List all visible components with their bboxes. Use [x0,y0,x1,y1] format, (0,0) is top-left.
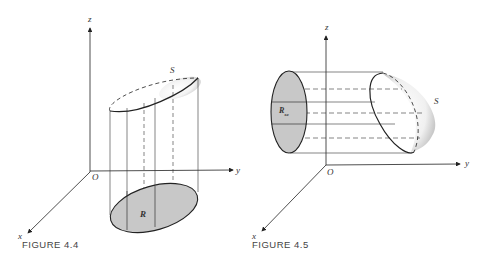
figure-4-5 [262,36,460,231]
surface-label: S [434,96,439,106]
figure-caption: FIGURE 4.5 [252,239,309,250]
surface-label: S [170,65,175,75]
x-axis [262,165,326,231]
z-axis-label: z [88,14,92,24]
region-r [105,174,204,241]
y-axis [326,164,460,165]
origin-label: O [92,172,99,182]
diagram-canvas [0,0,489,276]
y-axis [90,170,233,171]
figure-caption: FIGURE 4.4 [22,239,79,250]
region-label: R [140,209,146,219]
origin-label: O [327,167,334,177]
z-axis-label: z [325,22,329,32]
figure-4-4 [28,28,233,242]
y-axis-label: y [465,158,469,168]
region-r-xz [271,71,307,153]
y-axis-label: y [236,165,240,175]
x-axis [28,172,90,233]
region-label: Rxz [279,106,289,117]
